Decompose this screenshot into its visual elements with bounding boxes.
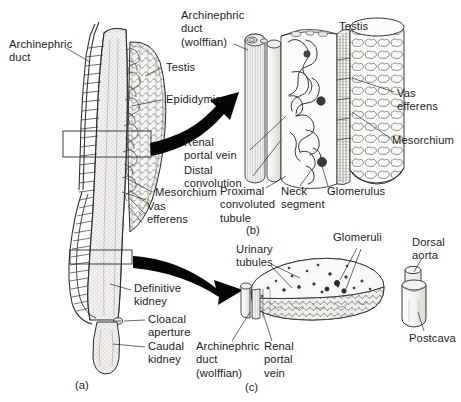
- panel-caption-a: (a): [75, 379, 89, 391]
- label-testis-b: Testis: [339, 20, 368, 33]
- label-vas-efferens-a: Vas efferens: [147, 200, 188, 227]
- label-glomeruli: Glomeruli: [333, 231, 382, 244]
- panel-caption-b: (b): [246, 224, 260, 236]
- label-dorsal-aorta: Dorsal aorta: [412, 236, 445, 263]
- label-definitive-kidney: Definitive kidney: [134, 282, 181, 309]
- label-cloacal-aperture: Cloacal aperture: [148, 313, 190, 340]
- label-proximal-convoluted-tubule: Proximal convoluted tubule: [220, 185, 275, 225]
- label-archinephric-duct-b: Archinephric duct (wolffian): [181, 9, 244, 49]
- label-glomerulus: Glomerulus: [327, 185, 385, 198]
- label-renal-portal-vein-c: Renal portal vein: [264, 340, 294, 380]
- label-testis-a: Testis: [166, 61, 195, 74]
- label-neck-segment: Neck segment: [281, 185, 325, 212]
- label-postcava: Postcava: [409, 332, 456, 345]
- label-archinephric-duct-c: Archinephric duct (wolffian): [196, 340, 259, 380]
- anatomy-figure: Archinephric duct Testis Epididymis Meso…: [0, 0, 461, 402]
- label-epididymis-a: Epididymis: [166, 93, 221, 106]
- panel-b-artwork: [234, 18, 404, 189]
- label-urinary-tubules: Urinary tubules: [236, 243, 273, 270]
- label-vas-efferens-b: Vas efferens: [397, 87, 438, 114]
- panel-caption-c: (c): [245, 381, 258, 393]
- label-caudal-kidney: Caudal kidney: [148, 340, 184, 367]
- label-renal-portal-vein-b: Renal portal vein: [184, 136, 237, 163]
- label-mesorchium-b: Mesorchium: [392, 134, 454, 147]
- label-archinephric-duct-a: Archinephric duct: [9, 38, 72, 65]
